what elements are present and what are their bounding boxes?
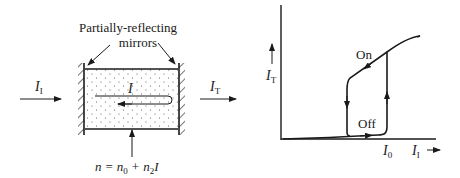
refractive-index-equation: n=n0+n2I: [95, 159, 159, 176]
threshold-label: I0: [382, 143, 393, 160]
left-mirror-pointer: [88, 45, 110, 65]
off-branch-curve: [283, 36, 420, 139]
y-axis-label: IT: [265, 68, 277, 85]
off-direction-arrow: [360, 135, 372, 136]
on-direction-arrow: [364, 63, 372, 69]
output-intensity-label: IT: [209, 79, 221, 96]
mirror-label-line1: Partially-reflecting: [79, 20, 178, 35]
input-intensity-label: II: [34, 79, 43, 96]
off-state-label: Off: [358, 116, 376, 131]
fabry-perot-cavity: Partially-reflecting mirrors I II IT n=n…: [20, 20, 236, 176]
on-state-label: On: [356, 47, 372, 62]
figure-canvas: Partially-reflecting mirrors I II IT n=n…: [0, 0, 460, 178]
x-axis-label: II: [411, 143, 420, 160]
nonlinear-medium: [85, 69, 178, 129]
hysteresis-plot: IT II I0 On Off: [265, 5, 440, 160]
right-mirror-pointer: [158, 43, 175, 64]
right-mirror: [179, 63, 185, 135]
left-mirror: [78, 63, 84, 135]
mirror-label-line2: mirrors: [119, 35, 157, 50]
